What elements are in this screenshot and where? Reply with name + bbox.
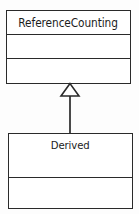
attributes-compartment-base [7, 35, 130, 59]
operations-compartment-derived [9, 178, 132, 208]
class-name-label-base: ReferenceCounting [19, 16, 119, 30]
class-name-label-derived: Derived [51, 139, 90, 152]
hollow-triangle-arrowhead-icon [61, 84, 79, 97]
class-name-compartment-derived: Derived [9, 134, 132, 156]
class-box-derived[interactable]: Derived [8, 133, 133, 209]
uml-class-diagram: ReferenceCounting Derived [0, 0, 139, 214]
class-name-compartment-base: ReferenceCounting [7, 11, 130, 35]
operations-compartment-base [7, 59, 130, 83]
attributes-compartment-derived [9, 156, 132, 178]
class-box-reference-counting[interactable]: ReferenceCounting [6, 10, 131, 84]
